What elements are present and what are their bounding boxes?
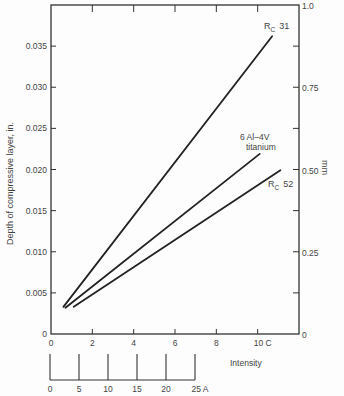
- compressive-layer-depth-chart: 00.0050.0100.0150.0200.0250.0300.035 00.…: [0, 0, 344, 396]
- a-scale-tick-label: 10: [103, 384, 113, 394]
- series-lines: [63, 36, 280, 307]
- right-y-axis: 00.250.500.751.0: [293, 1, 319, 340]
- x-tick-label: 10 C: [254, 338, 272, 348]
- series-line: [74, 170, 281, 307]
- a-scale-tick-label: 25 A: [191, 384, 208, 394]
- series-line: [63, 36, 272, 307]
- right-y-axis-label: mm: [320, 160, 330, 175]
- y-tick-label: 0.005: [26, 288, 48, 298]
- y-tick-label: 0.030: [26, 82, 48, 92]
- x-tick-label: 0: [49, 338, 54, 348]
- y-tick-label: 0: [42, 329, 47, 339]
- x-axis-a: 0510152025 A: [48, 354, 209, 394]
- plot-frame: [51, 5, 299, 334]
- x-tick-label: 2: [90, 338, 95, 348]
- a-scale-tick-label: 0: [48, 384, 53, 394]
- x-tick-label: 4: [131, 338, 136, 348]
- right-y-tick-label: 0.50: [302, 166, 319, 176]
- x-axis-c: 0246810 C: [49, 5, 272, 348]
- label-rc52: RC52: [268, 179, 293, 191]
- a-scale-tick-label: 5: [77, 384, 82, 394]
- a-scale-tick-label: 20: [161, 384, 171, 394]
- label-titanium-line1: 6 Al–4V: [240, 132, 270, 142]
- y-tick-label: 0.010: [26, 247, 48, 257]
- y-tick-label: 0.025: [26, 123, 48, 133]
- a-scale-tick-label: 15: [132, 384, 142, 394]
- plot-border: [51, 5, 299, 334]
- right-y-tick-label: 0.25: [302, 248, 319, 258]
- y-axis-label: Depth of compressive layer, in.: [5, 122, 15, 245]
- y-tick-label: 0.020: [26, 165, 48, 175]
- right-y-tick-label: 1.0: [302, 1, 314, 11]
- label-titanium-line2: titanium: [246, 142, 276, 152]
- x-tick-label: 6: [173, 338, 178, 348]
- series-labels: RC316 Al–4VtitaniumRC52: [240, 21, 293, 191]
- y-tick-label: 0.035: [26, 41, 48, 51]
- y-tick-label: 0.015: [26, 206, 48, 216]
- label-rc31: RC31: [264, 21, 289, 33]
- x-axis-label: Intensity: [230, 358, 262, 368]
- right-y-tick-label: 0: [302, 330, 307, 340]
- right-y-tick-label: 0.75: [302, 83, 319, 93]
- x-tick-label: 8: [214, 338, 219, 348]
